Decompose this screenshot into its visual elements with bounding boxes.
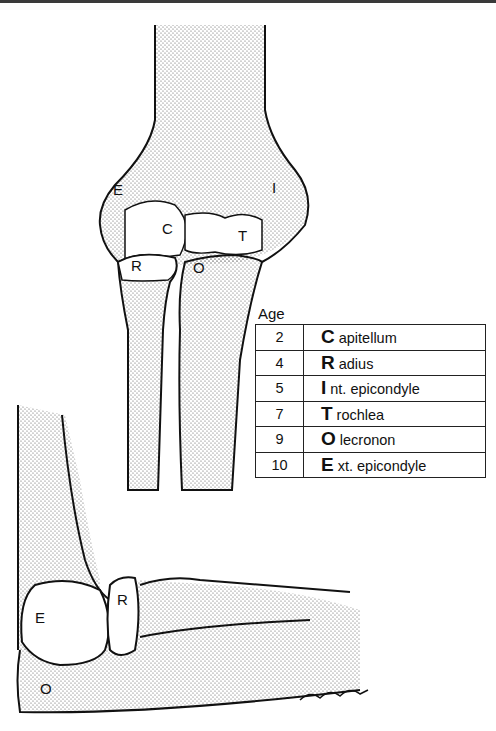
age-cell: 9 — [256, 427, 304, 453]
structure-rest: rochlea — [337, 407, 385, 423]
age-cell: 7 — [256, 401, 304, 427]
structure-cell: Capitellum — [304, 325, 486, 351]
label-c: C — [162, 220, 173, 237]
structure-rest: apitellum — [339, 330, 397, 346]
structure-rest: lecronon — [340, 432, 396, 448]
label-t: T — [238, 227, 247, 244]
mnemonic-letter: I — [321, 377, 326, 398]
table-row: 2 Capitellum — [256, 325, 486, 351]
table-row: 5 Int. epicondyle — [256, 376, 486, 402]
mnemonic-letter: E — [321, 454, 334, 475]
mnemonic-letter: T — [321, 403, 333, 424]
label-o-lateral: O — [40, 680, 52, 697]
label-o-anterior: O — [193, 259, 205, 276]
label-e-lateral: E — [35, 609, 45, 626]
table-row: 10 Ext. epicondyle — [256, 452, 486, 478]
structure-cell: Ext. epicondyle — [304, 452, 486, 478]
table-row: 9 Olecronon — [256, 427, 486, 453]
age-cell: 10 — [256, 452, 304, 478]
structure-rest: adius — [339, 356, 374, 372]
table-header-age: Age — [258, 305, 285, 322]
mnemonic-letter: R — [321, 352, 335, 373]
critoe-table: 2 Capitellum 4 Radius 5 Int. epicondyle … — [255, 324, 486, 478]
age-cell: 4 — [256, 350, 304, 376]
mnemonic-letter: C — [321, 326, 335, 347]
age-cell: 5 — [256, 376, 304, 402]
age-cell: 2 — [256, 325, 304, 351]
structure-cell: Olecronon — [304, 427, 486, 453]
structure-cell: Int. epicondyle — [304, 376, 486, 402]
structure-rest: xt. epicondyle — [338, 458, 427, 474]
mnemonic-letter: O — [321, 428, 336, 449]
label-e-anterior: E — [113, 181, 123, 198]
structure-cell: Radius — [304, 350, 486, 376]
structure-rest: nt. epicondyle — [330, 381, 419, 397]
label-r-anterior: R — [131, 257, 142, 274]
label-i: I — [272, 179, 276, 196]
table-row: 7 Trochlea — [256, 401, 486, 427]
label-r-lateral: R — [117, 591, 128, 608]
table-row: 4 Radius — [256, 350, 486, 376]
structure-cell: Trochlea — [304, 401, 486, 427]
